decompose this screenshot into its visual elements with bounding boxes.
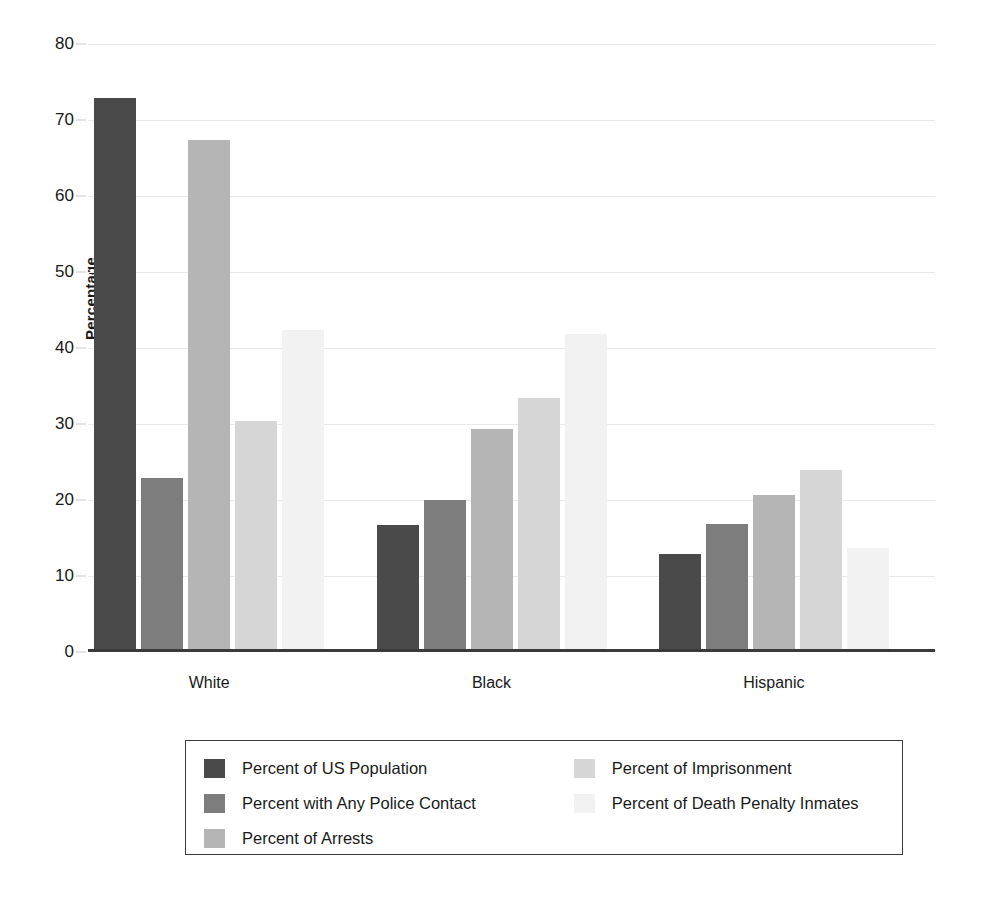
bar	[235, 421, 277, 649]
y-tick-mark	[76, 652, 86, 653]
x-axis-label-black: Black	[377, 674, 607, 692]
legend-label: Percent with Any Police Contact	[242, 795, 476, 812]
bar-group	[94, 41, 324, 649]
legend-item: Percent of Arrests	[204, 825, 574, 851]
legend-label: Percent of Death Penalty Inmates	[612, 795, 859, 812]
legend-item: Percent of US Population	[204, 755, 574, 781]
bar-chart: Percentage 01020304050607080 WhiteBlackH…	[0, 0, 993, 897]
y-tick-mark	[76, 120, 86, 121]
legend-item: Percent of Death Penalty Inmates	[574, 790, 892, 816]
y-tick-label: 60	[55, 186, 74, 206]
y-tick-label: 40	[55, 338, 74, 358]
x-axis-label-hispanic: Hispanic	[659, 674, 889, 692]
legend-label: Percent of US Population	[242, 760, 427, 777]
x-axis-label-white: White	[94, 674, 324, 692]
bar	[282, 330, 324, 649]
y-tick-mark	[76, 500, 86, 501]
plot-area: 01020304050607080	[88, 44, 935, 652]
x-axis-line	[88, 649, 935, 652]
bar	[706, 524, 748, 649]
y-tick-label: 20	[55, 490, 74, 510]
legend-label: Percent of Arrests	[242, 830, 373, 847]
y-tick-mark	[76, 196, 86, 197]
legend-column: Percent of US PopulationPercent with Any…	[204, 755, 574, 851]
legend-item: Percent of Imprisonment	[574, 755, 892, 781]
legend: Percent of US PopulationPercent with Any…	[185, 740, 903, 855]
legend-item: Percent with Any Police Contact	[204, 790, 574, 816]
legend-swatch-icon	[574, 794, 595, 813]
y-tick-mark	[76, 44, 86, 45]
bar	[800, 470, 842, 649]
bar	[94, 98, 136, 649]
legend-label: Percent of Imprisonment	[612, 760, 792, 777]
y-tick-label: 10	[55, 566, 74, 586]
bar	[141, 478, 183, 649]
bar	[659, 554, 701, 649]
bar	[753, 495, 795, 649]
bar	[847, 548, 889, 649]
legend-column: Percent of ImprisonmentPercent of Death …	[574, 755, 892, 851]
bar-group	[659, 41, 889, 649]
legend-swatch-icon	[204, 829, 225, 848]
y-tick-mark	[76, 348, 86, 349]
bar-group	[377, 41, 607, 649]
y-tick-mark	[76, 424, 86, 425]
y-tick-label: 70	[55, 110, 74, 130]
bar	[188, 140, 230, 649]
bar	[471, 429, 513, 649]
y-tick-label: 0	[65, 642, 74, 662]
y-tick-mark	[76, 272, 86, 273]
y-tick-label: 30	[55, 414, 74, 434]
legend-swatch-icon	[574, 759, 595, 778]
y-tick-label: 50	[55, 262, 74, 282]
bar	[565, 334, 607, 649]
y-tick-mark	[76, 576, 86, 577]
legend-swatch-icon	[204, 759, 225, 778]
bar	[377, 525, 419, 649]
y-tick-label: 80	[55, 34, 74, 54]
legend-swatch-icon	[204, 794, 225, 813]
bar	[424, 500, 466, 649]
bar	[518, 398, 560, 649]
